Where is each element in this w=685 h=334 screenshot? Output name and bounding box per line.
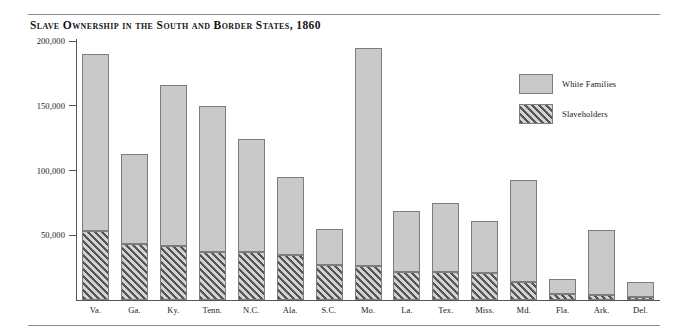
y-axis-tick-label: 100,000 — [37, 166, 65, 176]
legend-swatch-slaveholders — [519, 104, 553, 124]
x-axis-line — [76, 300, 660, 301]
bar-group[interactable] — [238, 139, 265, 300]
bar-segment-white-families[interactable] — [588, 230, 615, 295]
bar-segment-slaveholders[interactable] — [121, 244, 148, 300]
bar-segment-white-families[interactable] — [393, 211, 420, 272]
bar-group[interactable] — [393, 211, 420, 300]
bar-segment-white-families[interactable] — [160, 85, 187, 246]
x-axis-label: Ark. — [582, 305, 621, 315]
x-axis-label: Miss. — [465, 305, 504, 315]
y-axis-tick: 200,000 — [37, 36, 76, 46]
top-divider-rule — [28, 14, 660, 15]
bar-segment-slaveholders[interactable] — [549, 294, 576, 300]
x-axis-label: Mo. — [349, 305, 388, 315]
y-axis-tick-mark — [69, 235, 76, 236]
bottom-divider-rule — [28, 325, 660, 326]
bar-group[interactable] — [277, 177, 304, 300]
bar-segment-white-families[interactable] — [277, 177, 304, 255]
legend-label-slaveholders: Slaveholders — [562, 109, 608, 119]
legend-item-slaveholders: Slaveholders — [519, 104, 616, 124]
legend-swatch-white-families — [519, 74, 553, 94]
x-axis-label: Fla. — [543, 305, 582, 315]
bar-group[interactable] — [160, 85, 187, 300]
legend-label-white-families: White Families — [562, 79, 616, 89]
bar-segment-slaveholders[interactable] — [277, 255, 304, 300]
bar-segment-white-families[interactable] — [355, 48, 382, 267]
y-axis-tick: 50,000 — [41, 230, 76, 240]
bar-segment-slaveholders[interactable] — [471, 273, 498, 300]
bar-group[interactable] — [121, 154, 148, 300]
x-axis-label: Ala. — [271, 305, 310, 315]
bar-segment-white-families[interactable] — [199, 106, 226, 252]
bar-segment-slaveholders[interactable] — [510, 282, 537, 300]
bar-group[interactable] — [510, 180, 537, 300]
y-axis-tick: 100,000 — [37, 166, 76, 176]
bar-group[interactable] — [549, 279, 576, 300]
y-axis-tick-mark — [69, 105, 76, 106]
bar-segment-white-families[interactable] — [432, 203, 459, 272]
bar-segment-slaveholders[interactable] — [355, 266, 382, 300]
bar-segment-white-families[interactable] — [627, 282, 654, 298]
x-axis-label: Tex. — [426, 305, 465, 315]
x-axis-label: Va. — [76, 305, 115, 315]
x-axis-label: N.C. — [232, 305, 271, 315]
y-axis-tick-mark — [69, 41, 76, 42]
x-axis-label: Ga. — [115, 305, 154, 315]
bar-segment-slaveholders[interactable] — [393, 272, 420, 300]
y-axis-tick-label: 50,000 — [41, 230, 65, 240]
y-axis-tick-label: 150,000 — [37, 101, 65, 111]
bar-group[interactable] — [355, 47, 382, 300]
bar-segment-slaveholders[interactable] — [199, 252, 226, 300]
bar-group[interactable] — [316, 229, 343, 300]
bar-group[interactable] — [588, 230, 615, 300]
bar-segment-white-families[interactable] — [549, 279, 576, 293]
bar-group[interactable] — [627, 282, 654, 300]
chart-title: Slave Ownership in the South and Border … — [30, 19, 321, 31]
bar-segment-white-families[interactable] — [316, 229, 343, 265]
x-axis-label: Md. — [504, 305, 543, 315]
bar-segment-slaveholders[interactable] — [160, 246, 187, 300]
legend-item-white-families: White Families — [519, 74, 616, 94]
chart-figure: Slave Ownership in the South and Border … — [0, 0, 685, 334]
y-axis-tick: 150,000 — [37, 101, 76, 111]
chart-legend: White Families Slaveholders — [519, 74, 616, 134]
bar-group[interactable] — [199, 106, 226, 300]
bar-segment-slaveholders[interactable] — [238, 252, 265, 300]
bar-segment-white-families[interactable] — [510, 180, 537, 282]
x-axis-label: Ky. — [154, 305, 193, 315]
bar-segment-slaveholders[interactable] — [627, 297, 654, 300]
bar-group[interactable] — [471, 221, 498, 300]
bar-segment-white-families[interactable] — [82, 54, 109, 231]
bar-segment-white-families[interactable] — [471, 221, 498, 273]
x-axis-label: La. — [387, 305, 426, 315]
bar-group[interactable] — [82, 54, 109, 300]
bar-segment-white-families[interactable] — [238, 139, 265, 252]
bar-segment-white-families[interactable] — [121, 154, 148, 245]
x-axis-label: S.C. — [310, 305, 349, 315]
bar-group[interactable] — [432, 203, 459, 300]
x-axis-label: Tenn. — [193, 305, 232, 315]
bar-segment-slaveholders[interactable] — [588, 295, 615, 300]
y-axis-tick-mark — [69, 170, 76, 171]
bar-segment-slaveholders[interactable] — [432, 272, 459, 300]
bar-segment-slaveholders[interactable] — [82, 231, 109, 300]
bar-segment-slaveholders[interactable] — [316, 265, 343, 300]
y-axis-tick-label: 200,000 — [37, 36, 65, 46]
x-axis-label: Del. — [621, 305, 660, 315]
